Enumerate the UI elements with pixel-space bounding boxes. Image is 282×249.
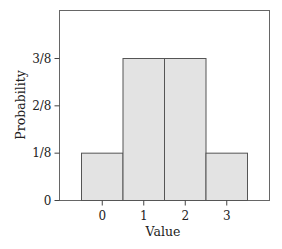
bar-1	[123, 59, 165, 201]
bar-0	[82, 153, 124, 200]
bar-2	[165, 59, 207, 201]
x-tick-label: 1	[140, 209, 148, 223]
y-tick-label: 0	[44, 194, 52, 208]
probability-bar-chart: 01/82/83/8 0123 Value Probability	[0, 0, 282, 249]
x-axis-ticks: 0123	[98, 201, 230, 223]
x-tick-label: 3	[223, 209, 231, 223]
y-tick-label: 3/8	[32, 52, 51, 66]
y-tick-label: 2/8	[32, 99, 51, 113]
y-axis-ticks: 01/82/83/8	[32, 52, 59, 208]
x-axis-label: Value	[145, 224, 181, 239]
x-tick-label: 2	[181, 209, 189, 223]
y-tick-label: 1/8	[32, 146, 51, 160]
bars-group	[82, 59, 248, 201]
bar-3	[206, 153, 248, 200]
x-tick-label: 0	[98, 209, 106, 223]
y-axis-label: Probability	[13, 69, 28, 139]
